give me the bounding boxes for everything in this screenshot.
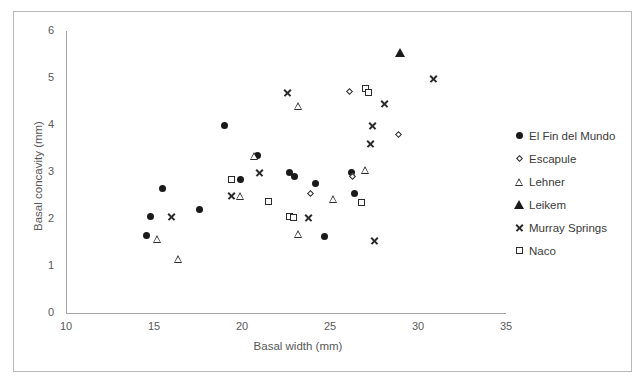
legend-label: Murray Springs — [529, 222, 607, 234]
marker-glyph — [294, 102, 302, 110]
marker-glyph — [395, 48, 405, 57]
marker-glyph — [429, 74, 438, 83]
x-tick-10: 10 — [51, 321, 81, 332]
marker-glyph — [228, 176, 235, 183]
scatter-plot-figure: 0123456 101520253035 Basal width (mm) Ba… — [0, 0, 644, 384]
x-tick-35: 35 — [491, 321, 521, 332]
marker-glyph — [346, 88, 353, 95]
y-tick-5: 5 — [32, 72, 54, 83]
x-tick-20: 20 — [227, 321, 257, 332]
legend-item-5[interactable]: Naco — [512, 239, 632, 262]
marker-glyph — [329, 195, 337, 203]
marker-glyph — [147, 213, 154, 220]
marker-glyph — [351, 190, 358, 197]
marker-glyph — [143, 232, 150, 239]
y-tick-6: 6 — [32, 25, 54, 36]
legend-swatch-open-triangle-icon — [512, 175, 526, 189]
marker-glyph — [380, 99, 389, 108]
marker-glyph — [515, 178, 523, 186]
marker-glyph — [237, 176, 244, 183]
marker-glyph — [514, 200, 524, 209]
y-tick-0: 0 — [32, 307, 54, 318]
y-tick-1: 1 — [32, 260, 54, 271]
legend-item-3[interactable]: Leikem — [512, 193, 632, 216]
marker-glyph — [290, 214, 297, 221]
legend-label: El Fin del Mundo — [529, 130, 615, 142]
marker-glyph — [283, 88, 292, 97]
marker-glyph — [312, 180, 319, 187]
marker-glyph — [368, 121, 377, 130]
legend-item-1[interactable]: Escapule — [512, 147, 632, 170]
y-axis-title: Basal concavity (mm) — [32, 96, 44, 256]
marker-glyph — [358, 199, 365, 206]
legend-item-2[interactable]: Lehner — [512, 170, 632, 193]
x-tick-30: 30 — [403, 321, 433, 332]
legend-label: Escapule — [529, 153, 576, 165]
marker-glyph — [265, 198, 272, 205]
marker-glyph — [307, 190, 314, 197]
legend: El Fin del MundoEscapuleLehnerLeikemMurr… — [512, 124, 632, 262]
legend-swatch-filled-circle-icon — [512, 129, 526, 143]
marker-glyph — [250, 152, 258, 160]
marker-glyph — [255, 168, 264, 177]
marker-glyph — [370, 236, 379, 245]
marker-glyph — [221, 122, 228, 129]
legend-swatch-filled-triangle-icon — [512, 198, 526, 212]
marker-glyph — [349, 173, 356, 180]
x-axis-title: Basal width (mm) — [198, 340, 398, 352]
y-axis-line — [66, 31, 67, 313]
marker-glyph — [365, 89, 372, 96]
legend-label: Lehner — [529, 176, 565, 188]
marker-glyph — [167, 212, 176, 221]
marker-glyph — [304, 213, 313, 222]
legend-item-0[interactable]: El Fin del Mundo — [512, 124, 632, 147]
marker-glyph — [291, 173, 298, 180]
marker-glyph — [395, 131, 402, 138]
marker-glyph — [294, 230, 302, 238]
marker-glyph — [153, 235, 161, 243]
legend-swatch-open-diamond-icon — [512, 152, 526, 166]
legend-swatch-open-square-icon — [512, 244, 526, 258]
legend-swatch-x-cross-icon — [512, 221, 526, 235]
marker-glyph — [515, 223, 524, 232]
marker-glyph — [321, 233, 328, 240]
marker-glyph — [516, 132, 523, 139]
marker-glyph — [516, 247, 523, 254]
marker-glyph — [515, 155, 522, 162]
marker-glyph — [361, 166, 369, 174]
legend-item-4[interactable]: Murray Springs — [512, 216, 632, 239]
marker-glyph — [236, 192, 244, 200]
marker-glyph — [174, 255, 182, 263]
marker-glyph — [366, 139, 375, 148]
x-tick-25: 25 — [315, 321, 345, 332]
marker-glyph — [227, 191, 236, 200]
x-tick-15: 15 — [139, 321, 169, 332]
marker-glyph — [159, 185, 166, 192]
marker-glyph — [196, 206, 203, 213]
x-axis-line — [66, 313, 506, 314]
legend-label: Naco — [529, 245, 556, 257]
legend-label: Leikem — [529, 199, 566, 211]
